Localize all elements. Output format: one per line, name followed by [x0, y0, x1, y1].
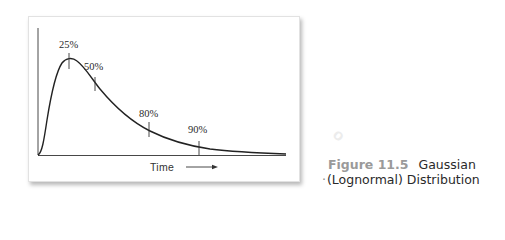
- caption-dot: ·: [322, 172, 326, 187]
- arrow-head-icon: [212, 165, 218, 169]
- caption-line-1: Figure 11.5Gaussian: [328, 157, 480, 172]
- marker-50-label: 50%: [84, 61, 104, 72]
- marker-90-label: 90%: [188, 124, 208, 135]
- distribution-curve: [38, 59, 286, 155]
- caption-line-2: ·(Lognormal) Distribution: [328, 172, 480, 187]
- marker-25-label: 25%: [59, 39, 79, 50]
- marker-80-label: 80%: [139, 108, 159, 119]
- figure-caption: Figure 11.5Gaussian ·(Lognormal) Distrib…: [328, 157, 480, 187]
- x-axis-label: Time: [150, 161, 174, 173]
- caption-title-2: (Lognormal) Distribution: [327, 172, 480, 187]
- figure-number: Figure 11.5: [328, 157, 409, 172]
- caption-title-1: Gaussian: [419, 157, 476, 172]
